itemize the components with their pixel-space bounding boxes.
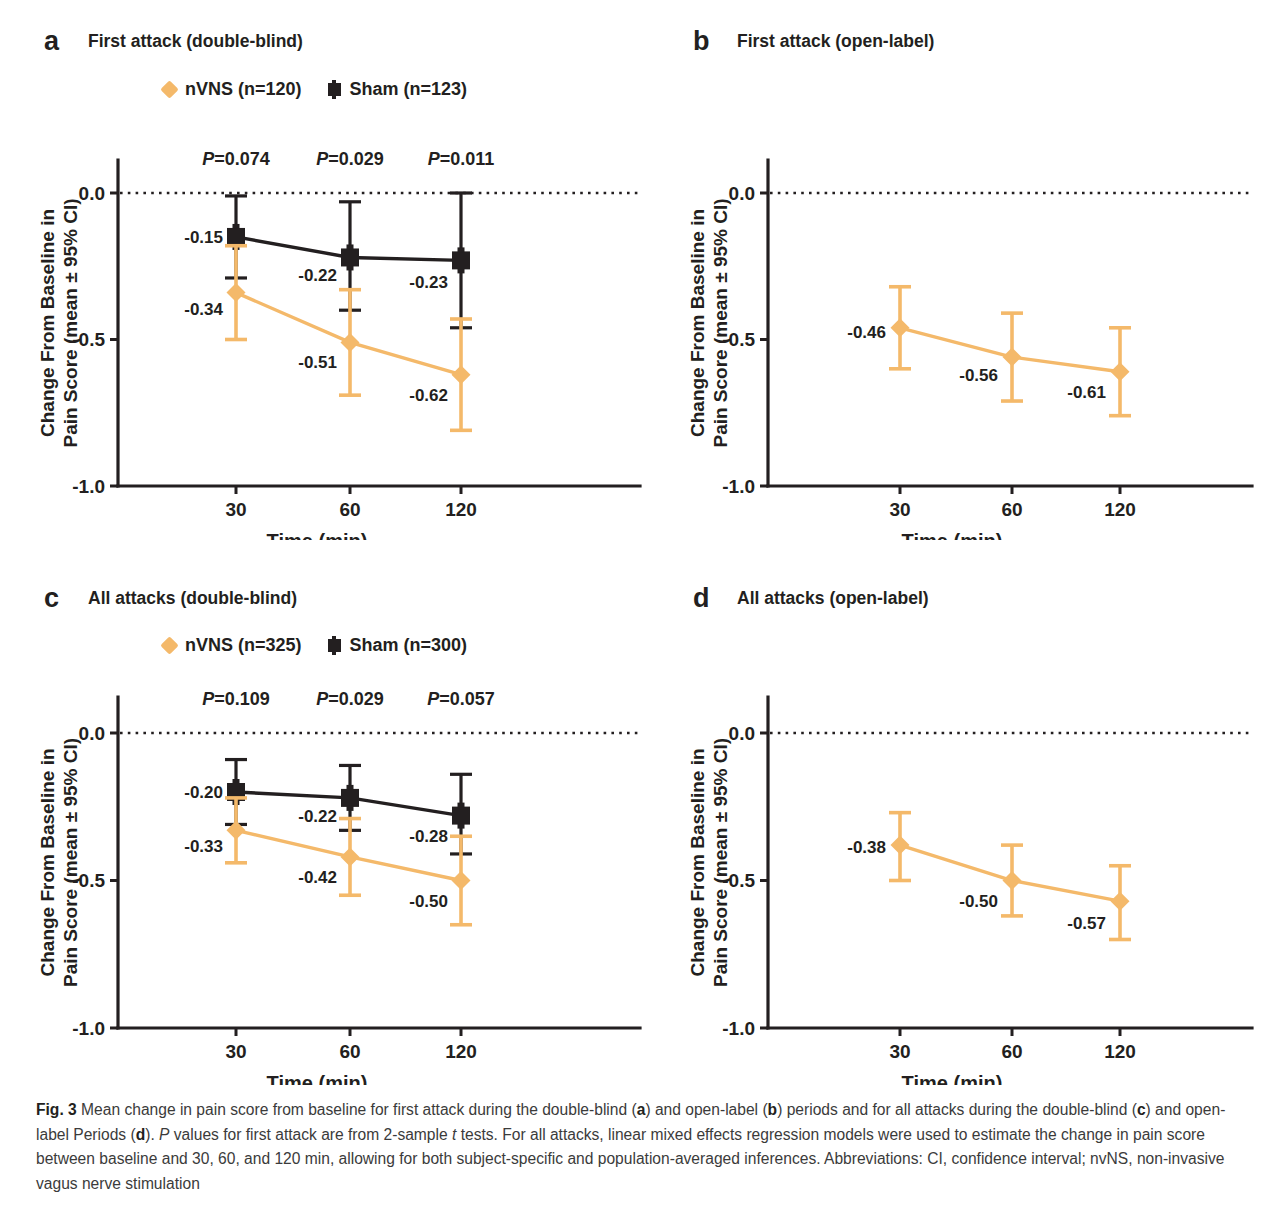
data-point-marker [341,333,360,352]
figure-caption-body: Mean change in pain score from baseline … [36,1101,1225,1192]
figure-caption: Fig. 3 Mean change in pain score from ba… [36,1098,1228,1197]
p-value-annotation: P=0.074 [202,149,270,169]
panel-c: c All attacks (double-blind) nVNS (n=325… [0,520,660,1090]
x-axis-tick-label: 120 [445,499,477,520]
x-axis-tick-label: 30 [889,499,910,520]
panel-d: d All attacks (open-label) 0.0-0.5-1.030… [660,520,1261,1090]
data-point-marker [452,251,470,269]
data-point-marker [891,318,910,337]
x-axis-tick-label: 120 [1104,1041,1136,1062]
data-point-marker [1003,348,1022,367]
data-point-marker-nub [347,244,354,249]
data-point-value-label: -0.15 [184,228,223,247]
legend-label-nvns: nVNS (n=120) [185,79,302,100]
panel-d-plot: 0.0-0.5-1.03060120Time (min)Change From … [660,665,1261,1085]
panel-a-legend: nVNS (n=120) Sham (n=123) [163,79,467,100]
panel-c-legend: nVNS (n=325) Sham (n=300) [163,635,467,656]
data-point-value-label: -0.20 [184,783,223,802]
data-point-marker [452,365,471,384]
data-point-value-label: -0.22 [298,807,337,826]
data-point-marker [341,847,360,866]
data-point-marker-nub [233,779,240,784]
y-axis-title-line: Pain Score (mean ± 95% CI) [60,198,81,447]
panel-a: a First attack (double-blind) nVNS (n=12… [0,0,660,545]
y-axis-tick-label: -1.0 [722,1018,755,1039]
data-point-marker [1111,362,1130,381]
data-point-marker-nub [347,265,354,270]
x-axis-title: Time (min) [267,1072,368,1085]
data-point-value-label: -0.38 [847,838,886,857]
legend-entry-sham: Sham (n=123) [328,79,468,100]
data-point-value-label: -0.57 [1067,914,1106,933]
square-marker-icon [328,83,341,96]
panel-b: b First attack (open-label) 0.0-0.5-1.03… [660,0,1261,545]
p-value-annotation: P=0.029 [316,149,384,169]
x-axis-tick-label: 60 [1001,499,1022,520]
panel-a-letter: a [44,26,59,57]
x-axis-tick-label: 30 [225,499,246,520]
data-point-marker [452,871,471,890]
y-axis-title-line: Change From Baseline in [687,209,708,437]
data-point-marker-nub [458,268,465,273]
x-axis-title: Time (min) [902,1072,1003,1085]
y-axis-title-line: Pain Score (mean ± 95% CI) [60,738,81,987]
panel-d-letter: d [693,583,710,614]
y-axis-title-line: Change From Baseline in [37,209,58,437]
diamond-marker-icon [160,80,178,98]
x-axis-tick-label: 30 [889,1041,910,1062]
data-point-value-label: -0.22 [298,266,337,285]
y-axis-title-line: Change From Baseline in [687,748,708,976]
p-value-annotation: P=0.029 [316,689,384,709]
x-axis-tick-label: 120 [1104,499,1136,520]
y-axis-tick-label: -1.0 [72,1018,105,1039]
data-point-marker-nub [233,224,240,229]
data-point-marker-nub [458,824,465,829]
x-axis-tick-label: 120 [445,1041,477,1062]
data-point-marker-nub [347,785,354,790]
figure-caption-label: Fig. 3 [36,1101,77,1118]
p-value-annotation: P=0.011 [428,149,495,169]
y-axis-tick-label: 0.0 [729,183,755,204]
panel-c-letter: c [44,583,59,614]
legend-entry-sham: Sham (n=300) [328,635,468,656]
p-value-annotation: P=0.109 [202,689,270,709]
data-point-marker [227,283,246,302]
data-point-value-label: -0.46 [847,323,886,342]
data-point-value-label: -0.50 [959,892,998,911]
data-point-value-label: -0.62 [409,386,448,405]
x-axis-tick-label: 60 [1001,1041,1022,1062]
data-point-value-label: -0.42 [298,868,337,887]
figure-3-root: a First attack (double-blind) nVNS (n=12… [0,0,1261,1212]
panel-d-title: All attacks (open-label) [737,588,929,609]
p-value-annotation: P=0.057 [427,689,495,709]
square-marker-icon [328,639,341,652]
y-axis-tick-label: 0.0 [79,723,105,744]
diamond-marker-icon [160,636,178,654]
data-point-marker [341,248,359,266]
data-point-marker [1003,871,1022,890]
x-axis-tick-label: 60 [339,1041,360,1062]
panel-b-plot: 0.0-0.5-1.03060120Time (min)Change From … [660,140,1261,540]
data-point-marker-nub [458,247,465,252]
data-point-value-label: -0.34 [184,300,223,319]
data-point-value-label: -0.56 [959,366,998,385]
data-point-marker [891,836,910,855]
y-axis-tick-label: 0.0 [729,723,755,744]
panel-b-title: First attack (open-label) [737,31,934,52]
legend-entry-nvns: nVNS (n=325) [163,635,302,656]
panel-c-title: All attacks (double-blind) [88,588,297,609]
legend-label-sham: Sham (n=300) [350,635,468,656]
y-axis-tick-label: 0.0 [79,183,105,204]
x-axis-tick-label: 60 [339,499,360,520]
data-point-marker-nub [347,806,354,811]
data-point-value-label: -0.28 [409,827,448,846]
data-point-marker [1111,892,1130,911]
panel-c-plot: 0.0-0.5-1.03060120Time (min)Change From … [0,665,660,1085]
data-point-marker [227,228,245,246]
data-point-value-label: -0.23 [409,273,448,292]
legend-label-sham: Sham (n=123) [350,79,468,100]
panel-a-title: First attack (double-blind) [88,31,303,52]
panel-a-plot: 0.0-0.5-1.03060120Time (min)Change From … [0,140,660,540]
y-axis-tick-label: -1.0 [72,476,105,497]
panel-b-letter: b [693,26,710,57]
